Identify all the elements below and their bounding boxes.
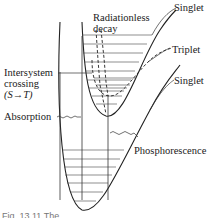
label-singlet-upper: Singlet xyxy=(174,2,204,13)
label-intersystem: Intersystem xyxy=(4,67,53,78)
label-crossing: crossing xyxy=(4,78,39,89)
label-s-to-t: (S→T) xyxy=(4,89,33,100)
label-absorption: Absorption xyxy=(4,111,51,122)
label-triplet: Triplet xyxy=(172,44,200,55)
radiationless-decay-arrow-2 xyxy=(101,30,108,96)
label-radiationless: Radiationless xyxy=(93,12,150,23)
singlet-ground-leader xyxy=(150,80,174,110)
absorption-wavy xyxy=(57,116,81,118)
label-phosphorescence: Phosphorescence xyxy=(134,145,206,156)
ground-singlet-curve xyxy=(59,22,180,210)
phosphorescence-wavy xyxy=(110,132,138,138)
figure-caption: Fig. 13.11 The xyxy=(2,211,59,218)
singlet-upper-leader xyxy=(152,8,176,35)
energy-level-diagram: Singlet Radiationless decay Triplet Inte… xyxy=(0,0,207,218)
label-decay: decay xyxy=(93,23,117,34)
label-singlet-ground: Singlet xyxy=(174,75,204,86)
radiationless-decay-arrow xyxy=(96,30,106,114)
triplet-leader xyxy=(148,48,170,62)
